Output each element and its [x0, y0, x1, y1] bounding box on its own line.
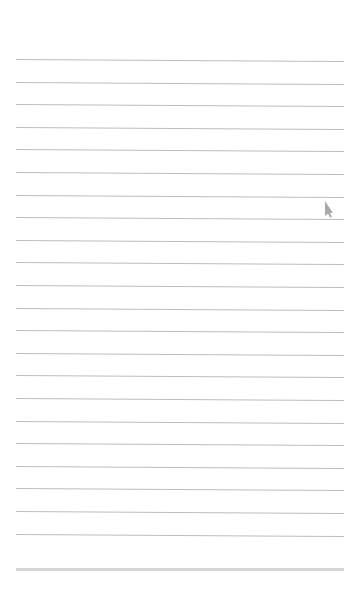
ruled-line — [16, 330, 344, 333]
ruled-line — [16, 353, 344, 356]
ruled-line — [16, 308, 344, 311]
ruled-line — [16, 217, 344, 220]
ruled-line — [16, 240, 344, 243]
bottom-margin-bar — [16, 568, 344, 571]
ruled-line — [16, 104, 344, 107]
ruled-line — [16, 511, 344, 514]
ruled-line — [16, 443, 344, 446]
notepad-page[interactable] — [0, 0, 362, 603]
ruled-line — [16, 172, 344, 175]
ruled-line — [16, 398, 344, 401]
ruled-line — [16, 488, 344, 491]
ruled-line — [16, 149, 344, 152]
ruled-line — [16, 421, 344, 424]
ruled-line — [16, 82, 344, 85]
ruled-line — [16, 466, 344, 469]
ruled-line — [16, 262, 344, 265]
ruled-line — [16, 375, 344, 378]
pointer-cursor-icon — [323, 200, 335, 218]
ruled-line — [16, 534, 344, 537]
ruled-line — [16, 127, 344, 130]
ruled-line — [16, 285, 344, 288]
ruled-line — [16, 59, 344, 62]
ruled-line — [16, 195, 344, 198]
